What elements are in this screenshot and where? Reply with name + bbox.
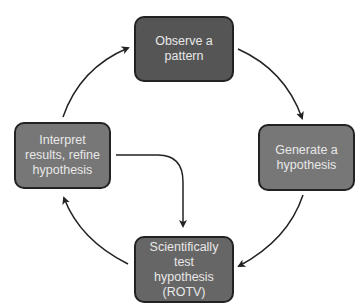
node-interpret-results: Interpret results, refine hypothesis — [14, 122, 111, 189]
node-label-line: Scientifically test — [140, 240, 228, 270]
node-label-line: hypothesis — [275, 158, 338, 173]
node-label-line: (ROTV) — [140, 285, 228, 300]
node-test-hypothesis: Scientifically test hypothesis (ROTV) — [134, 236, 234, 303]
node-label-line: Generate a — [275, 143, 338, 158]
arrow-generate-to-test — [239, 195, 303, 266]
node-label-line: pattern — [155, 49, 213, 64]
node-label-line: results, refine — [25, 148, 100, 163]
node-label-line: hypothesis — [140, 270, 228, 285]
arrow-interpret-to-observe — [63, 48, 128, 117]
arrow-interpret-to-test — [116, 155, 183, 226]
node-observe-pattern: Observe a pattern — [134, 16, 234, 82]
node-label-line: hypothesis — [25, 163, 100, 178]
node-generate-hypothesis: Generate a hypothesis — [258, 124, 355, 191]
arrow-observe-to-generate — [238, 49, 302, 118]
node-label-line: Interpret — [25, 133, 100, 148]
node-label-line: Observe a — [155, 34, 213, 49]
arrow-test-to-interpret — [64, 198, 128, 264]
